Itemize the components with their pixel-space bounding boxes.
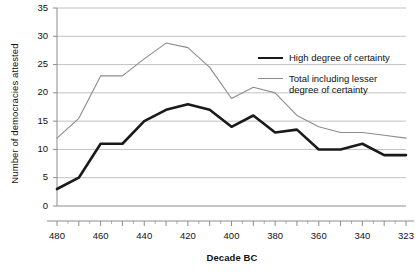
- x-tick-label: 460: [81, 231, 121, 241]
- line-chart: Number of democracies attested Decade BC…: [0, 0, 420, 276]
- y-tick-label: 35: [22, 3, 48, 13]
- x-tick-label: 360: [299, 231, 339, 241]
- y-tick-label: 20: [22, 87, 48, 97]
- y-tick-label: 10: [22, 144, 48, 154]
- y-tick-label: 0: [22, 201, 48, 211]
- y-axis-title: Number of democracies attested: [9, 24, 20, 204]
- x-tick-label: 323: [386, 231, 420, 241]
- legend-label-line: Total including lesser: [289, 73, 377, 84]
- legend-item-total: Total including lesser degree of certain…: [258, 73, 418, 96]
- x-tick-label: 380: [255, 231, 295, 241]
- y-tick-label: 5: [22, 172, 48, 182]
- x-tick-label: 480: [37, 231, 77, 241]
- legend-label-total: Total including lesser degree of certain…: [289, 73, 377, 96]
- x-tick-label: 420: [168, 231, 208, 241]
- legend-line-swatch-high-certainty: [258, 57, 283, 59]
- legend-label-high-certainty: High degree of certainty: [289, 52, 390, 64]
- legend-item-high-certainty: High degree of certainty: [258, 52, 418, 64]
- x-tick-label: 340: [342, 231, 382, 241]
- x-tick-label: 440: [124, 231, 164, 241]
- y-tick-label: 30: [22, 31, 48, 41]
- y-tick-label: 25: [22, 59, 48, 69]
- legend-label-line: degree of certainty: [289, 84, 368, 95]
- series-line-high-certainty: [57, 104, 406, 189]
- y-tick-label: 15: [22, 116, 48, 126]
- legend-line-swatch-total: [258, 78, 283, 79]
- chart-legend: High degree of certainty Total including…: [258, 52, 418, 105]
- x-axis-title: Decade BC: [57, 252, 407, 263]
- x-tick-label: 400: [212, 231, 252, 241]
- legend-label-line: High degree of certainty: [289, 52, 390, 63]
